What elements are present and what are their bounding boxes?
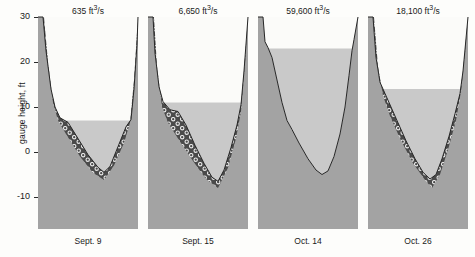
discharge-label: 59,600 ft3/s [258, 4, 358, 16]
cross-section-panel [258, 17, 358, 229]
date-label: Sept. 9 [38, 236, 138, 246]
panels-svg [0, 0, 475, 257]
cross-section-panel [148, 17, 248, 229]
cross-section-panel [38, 17, 138, 229]
date-label: Sept. 15 [148, 236, 248, 246]
cross-section-panel [368, 17, 468, 229]
discharge-label: 18,100 ft3/s [368, 4, 468, 16]
date-label: Oct. 26 [368, 236, 468, 246]
date-label: Oct. 14 [258, 236, 358, 246]
discharge-label: 635 ft3/s [38, 4, 138, 16]
cross-section-figure: gauge height, ft 3020100-10 635 ft3/sSep… [0, 0, 475, 257]
discharge-label: 6,650 ft3/s [148, 4, 248, 16]
